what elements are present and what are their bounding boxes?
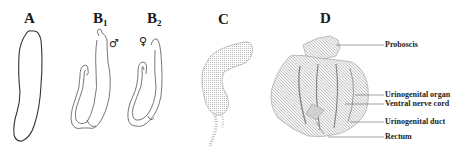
annotation-ventral-nerve-cord: Ventral nerve cord bbox=[385, 100, 449, 108]
annotation-urinogenital-duct: Urinogenital duct bbox=[385, 118, 445, 126]
annotation-proboscis: Proboscis bbox=[385, 41, 418, 49]
specimen-b1-male-outline bbox=[71, 29, 110, 129]
specimen-c-drawing bbox=[202, 42, 253, 146]
annotation-urinogenital-organ: Urinogenital organ bbox=[385, 91, 450, 99]
annotation-rectum: Rectum bbox=[385, 133, 412, 141]
specimen-b2-female-outline bbox=[128, 39, 162, 127]
specimen-a-outline bbox=[14, 31, 42, 141]
specimen-d-anatomy bbox=[271, 36, 369, 137]
